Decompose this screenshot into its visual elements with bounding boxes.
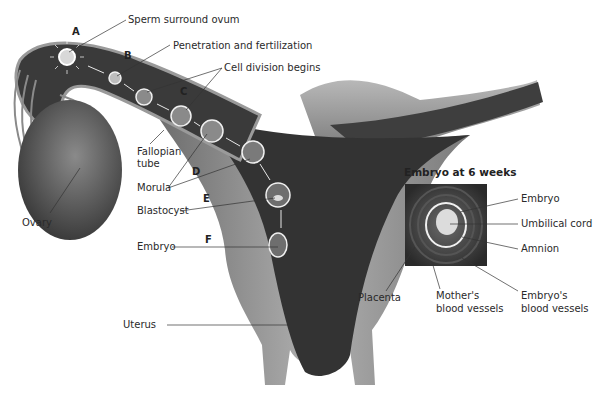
label-penetration-fertilization: Penetration and fertilization: [173, 40, 312, 52]
label-uterus: Uterus: [123, 319, 156, 331]
stage-letter-f: F: [205, 234, 212, 245]
label-mothers-vessels-line2: blood vessels: [436, 303, 504, 315]
label-inset-embryo: Embryo: [521, 193, 560, 205]
stage-letter-a: A: [72, 26, 80, 37]
label-blastocyst: Blastocyst: [137, 205, 189, 217]
inset-title: Embryo at 6 weeks: [404, 166, 516, 178]
label-embryos-vessels-line2: blood vessels: [521, 303, 589, 315]
label-fallopian-tube-line1: Fallopian: [137, 146, 181, 158]
label-placenta: Placenta: [358, 292, 401, 304]
label-umbilical-cord: Umbilical cord: [521, 218, 592, 230]
label-embryos-vessels-line1: Embryo's: [521, 290, 568, 302]
label-ovary: Ovary: [22, 217, 52, 229]
label-amnion: Amnion: [521, 243, 559, 255]
label-embryo-stage: Embryo: [137, 241, 176, 253]
stage-letter-b: B: [124, 50, 132, 61]
stage-letter-d: D: [192, 166, 200, 177]
stage-letter-e: E: [203, 193, 210, 204]
label-cell-division-begins: Cell division begins: [224, 62, 321, 74]
label-sperm-surround-ovum: Sperm surround ovum: [128, 14, 240, 26]
label-morula: Morula: [137, 182, 171, 194]
label-mothers-vessels-line1: Mother's: [436, 290, 479, 302]
inset-embryo: [436, 209, 458, 235]
stage-letter-c: C: [180, 86, 187, 97]
label-fallopian-tube-line2: tube: [137, 158, 160, 170]
